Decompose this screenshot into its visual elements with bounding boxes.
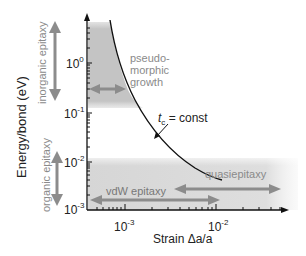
pseudo-line-3: growth: [130, 76, 170, 88]
y-axis-arrowhead: [84, 13, 90, 21]
tick-base: 10: [114, 220, 127, 234]
tick-exp: -1: [77, 105, 84, 114]
y-tick-label-1e-3: 10-3: [64, 202, 84, 217]
pseudomorphic-growth-label: pseudo- morphic growth: [130, 52, 170, 88]
pseudo-line-1: pseudo-: [130, 52, 170, 64]
tick-base: 10: [64, 203, 77, 217]
tick-exp: -2: [221, 218, 228, 227]
tick-base: 10: [64, 107, 77, 121]
tick-exp: -2: [77, 154, 84, 163]
inorganic-epitaxy-label: inorganic epitaxy: [36, 21, 48, 104]
pseudo-line-2: morphic: [130, 64, 170, 76]
quasiepitaxy-label: quasiepitaxy: [205, 168, 266, 180]
x-axis-title: Strain Δa/a: [153, 232, 212, 246]
y-tick-label-1e-2: 10-2: [64, 155, 84, 170]
organic-epitaxy-label: organic epitaxy: [40, 138, 52, 212]
tick-exp: -3: [77, 201, 84, 210]
y-axis-title: Energy/bond (eV): [14, 76, 29, 178]
tick-exp: 0: [79, 55, 83, 64]
tick-base: 10: [64, 156, 77, 170]
tc-const-label: tc = const: [158, 111, 208, 127]
tick-exp: -3: [127, 218, 134, 227]
x-tick-label-1e-3: 10-3: [114, 219, 134, 234]
vdw-epitaxy-label: vdW epitaxy: [106, 185, 166, 197]
organic-epitaxy-arrow: [51, 151, 63, 206]
tick-base: 10: [66, 57, 79, 71]
inorganic-epitaxy-arrow: [49, 21, 61, 101]
y-tick-label-1e-1: 10-1: [64, 106, 84, 121]
tc-rest: = const: [165, 111, 207, 125]
y-tick-label-1e0: 100: [66, 56, 84, 71]
